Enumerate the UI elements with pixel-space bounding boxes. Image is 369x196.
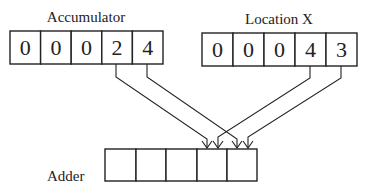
location-x-digit: 0 bbox=[212, 37, 223, 62]
adder-cell bbox=[197, 149, 227, 181]
adder-label: Adder bbox=[47, 168, 85, 184]
location-x-digit: 0 bbox=[274, 37, 285, 62]
location-x-digit: 3 bbox=[336, 37, 347, 62]
arrow-acc-ones bbox=[147, 64, 237, 148]
location-x-label: Location X bbox=[245, 11, 313, 27]
adder-cell bbox=[227, 149, 257, 181]
accumulator-digit: 0 bbox=[81, 35, 92, 60]
adder-cell bbox=[136, 149, 166, 181]
accumulator-digit: 0 bbox=[50, 35, 61, 60]
diagram-canvas: Accumulator 0 0 0 2 4 Location X 0 0 0 4… bbox=[0, 0, 369, 196]
adder-register bbox=[105, 149, 257, 181]
adder-cell bbox=[105, 149, 136, 181]
arrow-acc-tens bbox=[116, 64, 207, 148]
location-x-digit: 0 bbox=[243, 37, 254, 62]
accumulator-label: Accumulator bbox=[47, 9, 125, 25]
connection-arrows bbox=[116, 64, 341, 148]
accumulator-digit: 4 bbox=[142, 35, 153, 60]
location-x-register: 0 0 0 4 3 bbox=[202, 33, 357, 66]
diagram: Accumulator 0 0 0 2 4 Location X 0 0 0 4… bbox=[0, 0, 369, 196]
adder-cell bbox=[166, 149, 197, 181]
location-x-digit: 4 bbox=[305, 37, 316, 62]
accumulator-digit: 2 bbox=[112, 35, 123, 60]
accumulator-register: 0 0 0 2 4 bbox=[10, 31, 163, 64]
arrow-locx-ones bbox=[248, 66, 341, 148]
accumulator-digit: 0 bbox=[20, 35, 31, 60]
